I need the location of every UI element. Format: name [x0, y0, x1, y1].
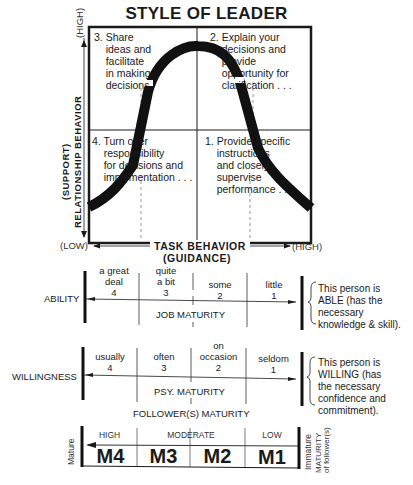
ability-note: This person is ABLE (has the necessary k… [318, 283, 401, 331]
x-axis-label-line1: TASK BEHAVIOR [150, 240, 250, 252]
maturity-side-label-line2: of follower(s) [322, 427, 331, 473]
willingness-col-2-text: on occasion [192, 340, 245, 362]
maturity-level-moderate: MODERATE [138, 430, 244, 440]
x-axis-label-line2: (GUIDANCE) [163, 252, 231, 264]
maturity-code-m2: M2 [190, 445, 245, 468]
maturity-code-m1: M1 [245, 446, 299, 469]
willingness-col-3-text: often [138, 351, 190, 362]
y-axis-high-label: (HIGH) [74, 8, 85, 38]
x-axis-low-label: (LOW) [60, 240, 88, 251]
willingness-arrow-left [85, 373, 93, 377]
ability-col-4-num: 4 [89, 287, 139, 298]
maturity-code-m3: M3 [137, 445, 190, 468]
y-axis-arrow-down [81, 231, 87, 238]
quadrant-1-text: 1. Provide specific instructions and clo… [205, 135, 293, 195]
maturity-level-low: LOW [246, 430, 298, 440]
willingness-col-1-num: 1 [247, 364, 300, 375]
willingness-arrow-right [288, 377, 296, 381]
curve-gap-mid [116, 125, 136, 127]
ability-col-3-text: quite a bit [140, 265, 192, 287]
y-axis-arrow-up [81, 40, 87, 47]
quadrant-4-text: 4. Turn over responsibility for decision… [92, 135, 192, 183]
ability-col-2-text: some [194, 279, 246, 290]
follower-maturity-title: FOLLOWER(S) MATURITY [133, 408, 249, 419]
ability-col-1-text: little [248, 279, 300, 290]
ability-brace [308, 282, 316, 324]
mature-label: Mature [66, 439, 76, 465]
immature-label: Immature [303, 434, 313, 470]
willingness-label: WILLINGNESS [12, 371, 77, 382]
willingness-note: This person is WILLING (has the necessar… [318, 357, 386, 417]
willingness-col-1-text: seldom [247, 353, 300, 364]
willingness-col-4-num: 4 [84, 362, 136, 373]
maturity-level-high: HIGH [83, 430, 136, 440]
quadrant-2-text: 2. Explain your decisions and provide op… [210, 31, 292, 91]
willingness-arrow-line [84, 375, 296, 379]
willingness-col-4-text: usually [84, 351, 136, 362]
y-axis-label-line2: RELATIONSHIP BEHAVIOR [72, 96, 83, 228]
quadrant-3-text: 3. Share ideas and facilitate in making … [94, 31, 151, 91]
ability-col-4-text: a great deal [89, 265, 139, 287]
ability-col-3-num: 3 [140, 287, 192, 298]
ability-col-1-num: 1 [248, 290, 300, 301]
y-axis-label-line1: (SUPPORT) [60, 143, 71, 200]
maturity-code-m4: M4 [84, 445, 137, 468]
job-maturity-label: JOB MATURITY [156, 309, 225, 320]
willingness-brace [307, 357, 315, 405]
ability-col-2-num: 2 [194, 290, 246, 301]
ability-label: ABILITY [44, 293, 79, 304]
x-axis-high-label: (HIGH) [292, 241, 322, 252]
psy-maturity-label: PSY. MATURITY [154, 386, 225, 397]
willingness-col-2-num: 2 [192, 362, 245, 373]
willingness-col-3-num: 3 [138, 362, 190, 373]
